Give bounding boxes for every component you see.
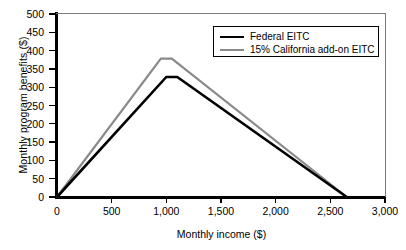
series-line-california-add-on-eitc	[57, 59, 347, 197]
legend-swatch-icon-federal-eitc	[220, 36, 244, 38]
eitc-benefit-schedule-chart: Monthly program benefits ($) Monthly inc…	[0, 0, 406, 250]
legend-label-federal-eitc: Federal EITC	[250, 31, 309, 43]
legend-item-federal-eitc: Federal EITC	[220, 30, 378, 43]
chart-legend: Federal EITC 15% California add-on EITC	[213, 26, 379, 57]
legend-item-california-add-on-eitc: 15% California add-on EITC	[220, 43, 378, 56]
series-line-federal-eitc	[57, 77, 347, 197]
legend-swatch-icon-california-add-on-eitc	[220, 49, 244, 51]
legend-label-california-add-on-eitc: 15% California add-on EITC	[250, 44, 375, 56]
